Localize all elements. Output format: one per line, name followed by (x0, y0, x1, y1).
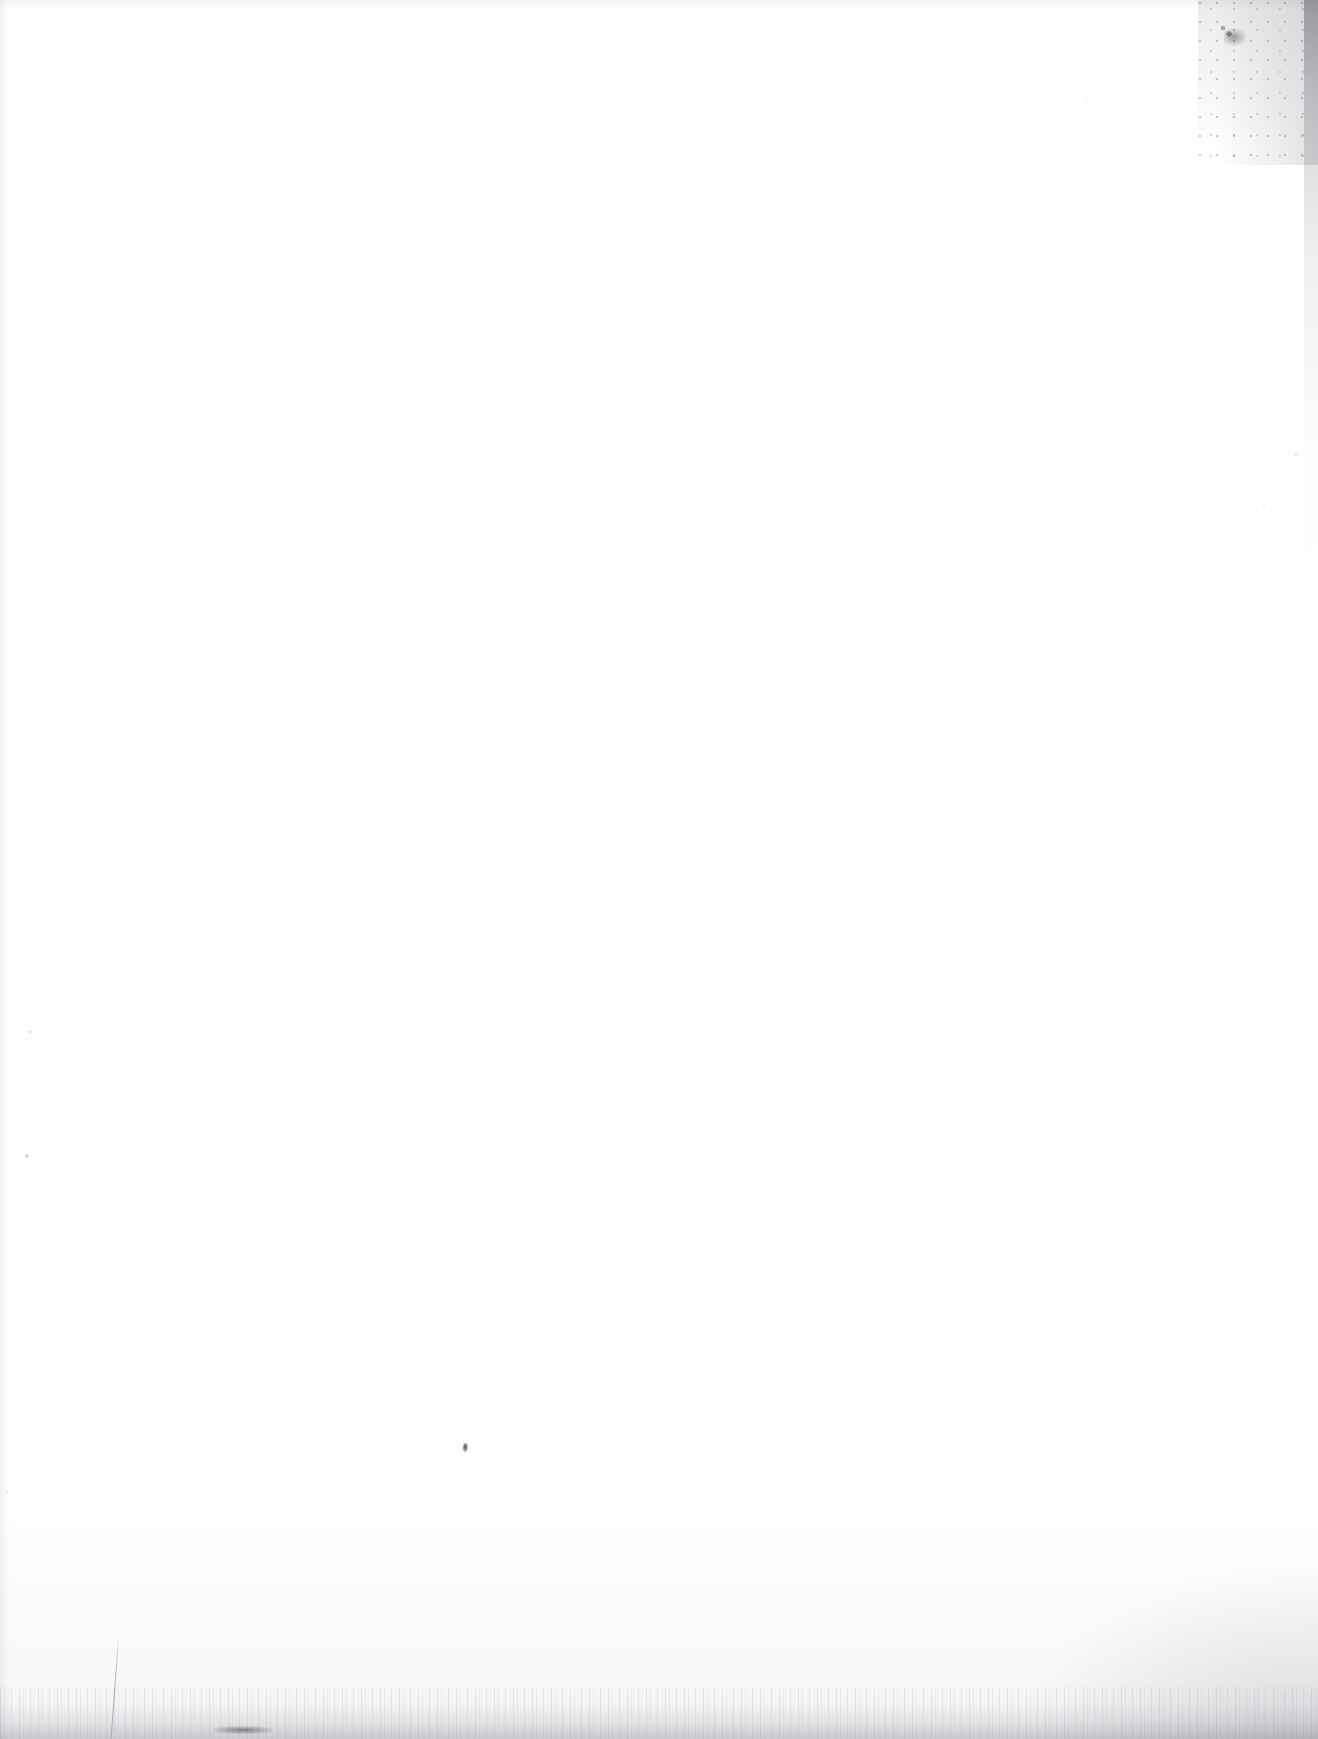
scanned-page (0, 0, 1318, 1739)
paper-surface (0, 0, 1318, 1739)
